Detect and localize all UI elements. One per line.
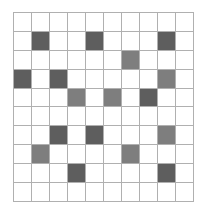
grid-cell-r3-c0 xyxy=(14,70,32,89)
grid-cell-r7-c0 xyxy=(14,145,32,164)
grid-cell-r6-c0 xyxy=(14,126,32,145)
grid-cell-r2-c9 xyxy=(176,51,194,70)
grid-cell-r7-c1 xyxy=(32,145,50,164)
grid-cell-r6-c3 xyxy=(68,126,86,145)
grid-cell-r6-c1 xyxy=(32,126,50,145)
shaded-cell-grid xyxy=(13,12,194,202)
grid-cell-r9-c1 xyxy=(32,183,50,202)
grid-cell-r3-c6 xyxy=(122,70,140,89)
grid-cell-r3-c2 xyxy=(50,70,68,89)
grid-cell-r0-c3 xyxy=(68,13,86,32)
grid-cell-r2-c6 xyxy=(122,51,140,70)
grid-cell-r2-c0 xyxy=(14,51,32,70)
grid-cell-r9-c8 xyxy=(158,183,176,202)
grid-cell-r6-c6 xyxy=(122,126,140,145)
grid-cell-r7-c8 xyxy=(158,145,176,164)
grid-cell-r5-c1 xyxy=(32,107,50,126)
grid-cell-r2-c4 xyxy=(86,51,104,70)
grid-cell-r4-c7 xyxy=(140,89,158,108)
grid-cell-r5-c3 xyxy=(68,107,86,126)
grid-cell-r3-c7 xyxy=(140,70,158,89)
grid-cell-r9-c7 xyxy=(140,183,158,202)
grid-cell-r4-c9 xyxy=(176,89,194,108)
grid-cell-r5-c9 xyxy=(176,107,194,126)
grid-cell-r0-c6 xyxy=(122,13,140,32)
grid-cell-r7-c4 xyxy=(86,145,104,164)
grid-cell-r8-c2 xyxy=(50,164,68,183)
grid-cell-r1-c9 xyxy=(176,32,194,51)
grid-cell-r4-c6 xyxy=(122,89,140,108)
grid-cell-r2-c7 xyxy=(140,51,158,70)
grid-cell-r5-c0 xyxy=(14,107,32,126)
grid-cell-r0-c1 xyxy=(32,13,50,32)
grid-cell-r3-c1 xyxy=(32,70,50,89)
grid-cell-r7-c7 xyxy=(140,145,158,164)
grid-cell-r0-c7 xyxy=(140,13,158,32)
grid-cell-r1-c2 xyxy=(50,32,68,51)
grid-cell-r0-c4 xyxy=(86,13,104,32)
grid-cell-r2-c5 xyxy=(104,51,122,70)
grid-cell-r9-c6 xyxy=(122,183,140,202)
grid-cell-r6-c9 xyxy=(176,126,194,145)
grid-cell-r2-c2 xyxy=(50,51,68,70)
grid-cell-r6-c7 xyxy=(140,126,158,145)
grid-cell-r1-c5 xyxy=(104,32,122,51)
grid-cell-r5-c2 xyxy=(50,107,68,126)
grid-cell-r6-c2 xyxy=(50,126,68,145)
grid-cell-r8-c9 xyxy=(176,164,194,183)
grid-cell-r4-c8 xyxy=(158,89,176,108)
grid-cell-r8-c1 xyxy=(32,164,50,183)
grid-cell-r2-c1 xyxy=(32,51,50,70)
grid-cell-r1-c3 xyxy=(68,32,86,51)
grid-cell-r9-c2 xyxy=(50,183,68,202)
grid-cell-r8-c4 xyxy=(86,164,104,183)
grid-cell-r3-c9 xyxy=(176,70,194,89)
grid-cell-r1-c4 xyxy=(86,32,104,51)
grid-cell-r9-c5 xyxy=(104,183,122,202)
grid-cell-r7-c9 xyxy=(176,145,194,164)
grid-cell-r7-c6 xyxy=(122,145,140,164)
grid-cell-r9-c9 xyxy=(176,183,194,202)
grid-cell-r8-c5 xyxy=(104,164,122,183)
grid-cell-r0-c9 xyxy=(176,13,194,32)
grid-cell-r6-c5 xyxy=(104,126,122,145)
grid-cell-r4-c4 xyxy=(86,89,104,108)
grid-cell-r4-c0 xyxy=(14,89,32,108)
grid-cell-r4-c5 xyxy=(104,89,122,108)
grid-cell-r1-c8 xyxy=(158,32,176,51)
grid-cell-r0-c2 xyxy=(50,13,68,32)
grid-cell-r7-c2 xyxy=(50,145,68,164)
grid-cell-r3-c4 xyxy=(86,70,104,89)
grid-cell-r3-c5 xyxy=(104,70,122,89)
grid-cell-r1-c1 xyxy=(32,32,50,51)
grid-cell-r4-c3 xyxy=(68,89,86,108)
grid-cell-r0-c8 xyxy=(158,13,176,32)
grid-cell-r8-c8 xyxy=(158,164,176,183)
grid-cell-r2-c8 xyxy=(158,51,176,70)
grid-cell-r8-c6 xyxy=(122,164,140,183)
grid-cell-r8-c3 xyxy=(68,164,86,183)
grid-cell-r1-c0 xyxy=(14,32,32,51)
grid-cell-r7-c3 xyxy=(68,145,86,164)
grid-cell-r4-c1 xyxy=(32,89,50,108)
grid-cell-r0-c0 xyxy=(14,13,32,32)
grid-cell-r1-c7 xyxy=(140,32,158,51)
grid-cell-r9-c0 xyxy=(14,183,32,202)
grid-cell-r6-c8 xyxy=(158,126,176,145)
grid-cell-r5-c8 xyxy=(158,107,176,126)
grid-cell-r3-c3 xyxy=(68,70,86,89)
grid-cell-r6-c4 xyxy=(86,126,104,145)
grid-cell-r0-c5 xyxy=(104,13,122,32)
grid-cell-r9-c3 xyxy=(68,183,86,202)
grid-cell-r9-c4 xyxy=(86,183,104,202)
grid-cell-r4-c2 xyxy=(50,89,68,108)
grid-cell-r8-c7 xyxy=(140,164,158,183)
grid-cell-r5-c6 xyxy=(122,107,140,126)
grid-cell-r3-c8 xyxy=(158,70,176,89)
grid-cell-r8-c0 xyxy=(14,164,32,183)
grid-cell-r7-c5 xyxy=(104,145,122,164)
grid-cell-r1-c6 xyxy=(122,32,140,51)
grid-cell-r2-c3 xyxy=(68,51,86,70)
grid-cell-r5-c4 xyxy=(86,107,104,126)
grid-cell-r5-c5 xyxy=(104,107,122,126)
